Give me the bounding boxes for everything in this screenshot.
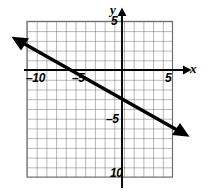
x-tick-label-neg5: –5 — [72, 72, 85, 84]
coordinate-graph-figure: y x –10 –5 5 5 –5 10 — [0, 0, 207, 196]
x-tick-label-pos5: 5 — [165, 72, 171, 84]
y-tick-label-neg10: 10 — [110, 167, 123, 179]
y-tick-label-pos5: 5 — [111, 15, 117, 27]
graph-canvas — [0, 0, 207, 196]
x-tick-label-neg10: –10 — [26, 72, 45, 84]
y-tick-label-neg5: –5 — [106, 113, 119, 125]
grid-area — [27, 21, 173, 177]
x-axis-name-label: x — [190, 62, 197, 75]
